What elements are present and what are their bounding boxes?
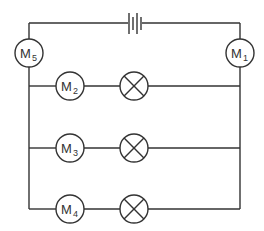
meter-m2-sub: 2 <box>73 86 78 96</box>
meter-m4-letter: M <box>61 202 72 217</box>
meter-m5-letter: M <box>20 46 31 61</box>
lamp-icon <box>120 195 148 223</box>
meter-m4: M 4 <box>56 195 84 223</box>
meter-m5-sub: 5 <box>32 53 37 63</box>
meter-m1-letter: M <box>231 46 242 61</box>
meter-m3-sub: 3 <box>73 148 78 158</box>
top-wire <box>29 23 240 39</box>
branch-1: M 2 <box>29 72 240 100</box>
meter-m1: M 1 <box>226 39 254 67</box>
lamp-icon <box>120 134 148 162</box>
meter-m3: M 3 <box>56 134 84 162</box>
lamp-icon <box>120 72 148 100</box>
branch-2: M 3 <box>29 134 240 162</box>
meter-m4-sub: 4 <box>73 209 78 219</box>
meter-m1-sub: 1 <box>243 53 248 63</box>
meter-m3-letter: M <box>61 141 72 156</box>
meter-m2: M 2 <box>56 72 84 100</box>
meter-m2-letter: M <box>61 79 72 94</box>
circuit-diagram: M 5 M 1 M 2 M 3 <box>0 0 264 231</box>
branch-3: M 4 <box>29 195 240 223</box>
battery-icon <box>129 13 141 34</box>
meter-m5: M 5 <box>15 39 43 67</box>
